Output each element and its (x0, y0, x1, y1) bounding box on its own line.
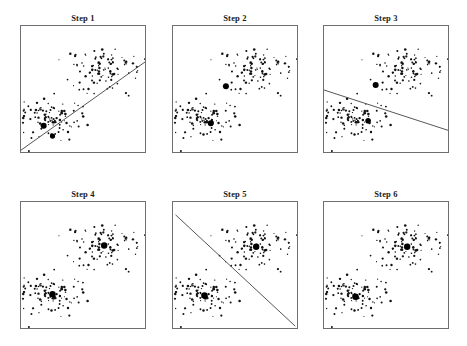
scatter-plot-step-2 (173, 26, 298, 153)
panel-title-step-2: Step 2 (172, 13, 298, 23)
plot-frame-step-6 (323, 201, 449, 329)
centroid-marker (352, 294, 358, 300)
centroid-marker (253, 244, 259, 250)
centroid-marker (404, 244, 410, 250)
data-points-step-5 (174, 224, 298, 328)
plot-frame-step-4 (20, 201, 146, 329)
scatter-plot-step-5 (173, 202, 298, 329)
scatter-plot-step-1 (21, 26, 146, 153)
decision-boundary-step-5 (176, 215, 296, 326)
decision-boundary-step-1 (21, 61, 146, 151)
centroid-marker (201, 292, 207, 298)
centroid-marker (50, 133, 55, 138)
plot-frame-step-5 (172, 201, 298, 329)
panel-step-4: Step 4 (20, 189, 146, 329)
centroids-step-6 (352, 244, 410, 300)
scatter-plot-step-4 (21, 202, 146, 329)
centroid-marker (208, 120, 214, 126)
panel-step-2: Step 2 (172, 13, 298, 153)
centroid-marker (223, 83, 229, 89)
centroid-marker (365, 118, 371, 124)
data-points-step-6 (325, 224, 449, 328)
scatter-plot-step-6 (324, 202, 449, 329)
panel-step-5: Step 5 (172, 189, 298, 329)
panel-step-3: Step 3 (323, 13, 449, 153)
panel-title-step-3: Step 3 (323, 13, 449, 23)
panel-title-step-6: Step 6 (323, 189, 449, 199)
plot-frame-step-3 (323, 25, 449, 153)
data-points-step-2 (174, 48, 298, 152)
centroid-marker (49, 291, 55, 297)
panel-title-step-5: Step 5 (172, 189, 298, 199)
figure-canvas: Step 1Step 2Step 3Step 4Step 5Step 6 (0, 0, 467, 346)
plot-frame-step-2 (172, 25, 298, 153)
centroids-step-5 (201, 244, 259, 299)
centroid-marker (101, 242, 107, 248)
centroids-step-3 (365, 82, 378, 124)
panel-title-step-4: Step 4 (20, 189, 146, 199)
data-points-step-3 (325, 48, 449, 152)
scatter-plot-step-3 (324, 26, 449, 153)
plot-frame-step-1 (20, 25, 146, 153)
panel-step-1: Step 1 (20, 13, 146, 153)
decision-boundary-step-3 (324, 90, 449, 131)
data-points-step-4 (22, 224, 146, 328)
panel-step-6: Step 6 (323, 189, 449, 329)
centroid-marker (41, 123, 47, 129)
centroid-marker (373, 82, 379, 88)
panel-title-step-1: Step 1 (20, 13, 146, 23)
